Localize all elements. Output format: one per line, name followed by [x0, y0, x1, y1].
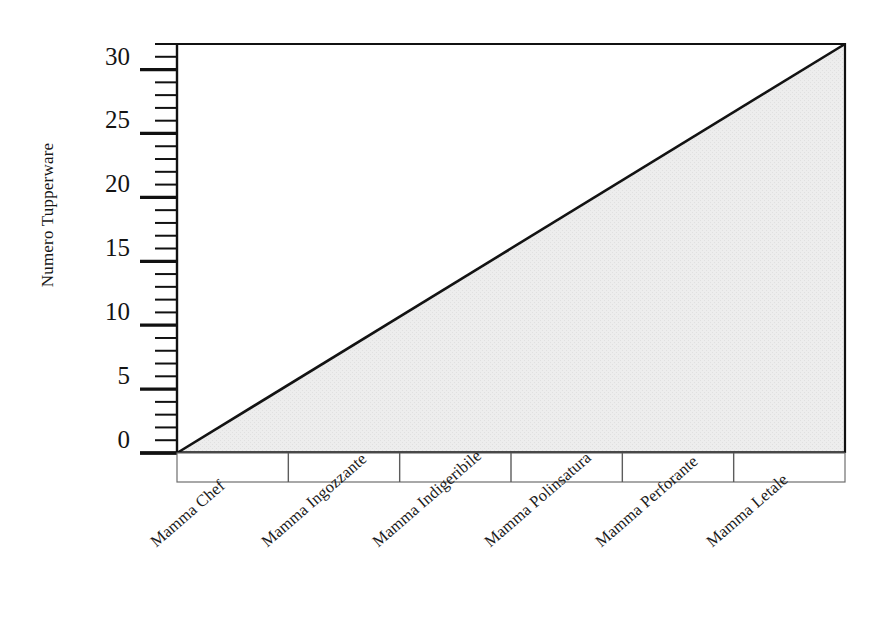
plot-canvas	[0, 0, 895, 644]
y-axis-tick-marks	[140, 44, 177, 453]
category-cell-row	[177, 453, 845, 482]
chart-figure: Numero Tupperware 302520151050 Mamma Che…	[0, 0, 895, 644]
